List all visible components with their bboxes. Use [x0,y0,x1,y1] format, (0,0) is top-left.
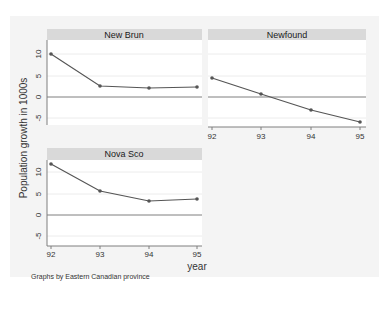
svg-text:94: 94 [145,250,154,259]
x-axis-label: year [187,261,207,272]
y-axis-label: Population growth in 1000s [18,78,29,199]
svg-text:5: 5 [34,191,43,196]
panel-title: Nova Sco [104,149,143,159]
panel-title: New Brun [104,30,144,40]
panel-title: Newfound [267,30,308,40]
y-tick-labels: 10 5 0 -5 [34,49,43,122]
svg-text:-5: -5 [34,114,43,122]
svg-text:95: 95 [356,132,365,141]
plot-area [47,160,202,246]
chart-note: Graphs by Eastern Canadian province [31,273,150,281]
svg-text:0: 0 [34,212,43,217]
panel-new-brun: New Brun 10 5 0 -5 [34,29,202,125]
plot-area [47,40,202,125]
svg-text:95: 95 [193,250,202,259]
svg-text:93: 93 [96,250,105,259]
chart-svg: New Brun 10 5 0 -5 Newfound 92 [0,0,384,309]
svg-text:5: 5 [34,73,43,78]
svg-text:94: 94 [307,132,316,141]
svg-text:93: 93 [257,132,266,141]
svg-text:0: 0 [34,94,43,99]
svg-text:-5: -5 [34,232,43,240]
x-tick-labels: 92 93 94 95 [208,132,365,141]
panel-newfound: Newfound 92 93 94 95 [208,29,366,141]
plot-area [208,40,366,127]
x-tick-labels: 92 93 94 95 [47,250,202,259]
svg-text:10: 10 [34,49,43,58]
svg-text:10: 10 [34,167,43,176]
y-tick-labels: 10 5 0 -5 [34,167,43,240]
svg-text:92: 92 [208,132,217,141]
panel-nova-sco: Nova Sco 10 5 0 -5 92 93 94 95 [34,148,202,259]
svg-text:92: 92 [47,250,56,259]
